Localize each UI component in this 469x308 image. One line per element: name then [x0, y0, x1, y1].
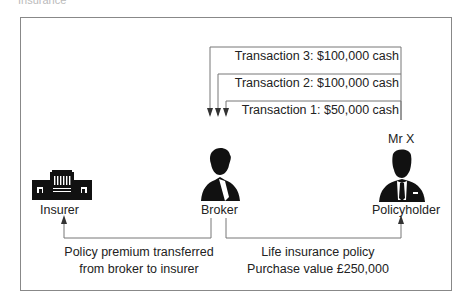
policy-caption-line2: Purchase value £250,000: [228, 261, 408, 278]
premium-caption-line1: Policy premium transferred: [64, 244, 214, 261]
transaction-1-label: Transaction 1: $50,000 cash: [229, 103, 399, 117]
policy-caption-line1: Life insurance policy: [228, 244, 408, 261]
broker-label: Broker: [201, 203, 238, 217]
mr-x-label: Mr X: [388, 132, 414, 146]
insurer-label: Insurer: [40, 203, 79, 217]
policyholder-label: Policyholder: [372, 203, 440, 217]
person-icon: [199, 147, 243, 201]
premium-caption-line2: from broker to insurer: [64, 261, 214, 278]
premium-caption: Policy premium transferred from broker t…: [64, 244, 214, 278]
building-icon: [32, 170, 92, 200]
person-suit-icon: [378, 148, 426, 202]
policy-caption: Life insurance policy Purchase value £25…: [228, 244, 408, 278]
transaction-2-label: Transaction 2: $100,000 cash: [229, 76, 399, 90]
transaction-3-label: Transaction 3: $100,000 cash: [229, 49, 399, 63]
